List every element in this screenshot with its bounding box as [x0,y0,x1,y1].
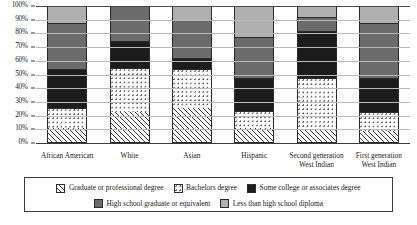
y-tick-label: 50% [15,71,28,78]
legend-item[interactable]: Less than high school diploma [220,199,323,208]
bar-segment[interactable] [48,128,86,142]
y-tick-mark [31,33,35,34]
stacked-bar-chart: 0%10%20%30%40%50%60%70%80%90%100% Africa… [0,0,417,225]
bar-segment[interactable] [298,130,336,142]
x-axis: African AmericanWhiteAsianHispanicSecond… [36,152,410,176]
x-axis-label: Hispanic [223,152,285,161]
x-axis-label: African American [36,152,98,161]
bar-segment[interactable] [48,108,86,129]
y-tick-mark [31,88,35,89]
bar-segment[interactable] [235,128,273,142]
gridline [36,47,410,48]
y-tick-label: 100% [12,2,28,9]
y-tick-label: 30% [15,98,28,105]
legend-row-1: Graduate or professional degreeBachelors… [25,181,392,196]
legend-item[interactable]: Graduate or professional degree [56,184,163,193]
gridline [36,20,410,21]
legend-swatch-darkgray-icon [94,199,103,208]
legend-item[interactable]: Bachelors degree [174,184,238,193]
y-tick-label: 60% [15,57,28,64]
x-axis-label: White [98,152,160,161]
gridline [36,6,410,7]
gridline [36,33,410,34]
plot-wrapper: 0%10%20%30%40%50%60%70%80%90%100% [0,6,417,151]
y-tick-mark [31,74,35,75]
legend-swatch-black-icon [247,184,256,193]
bar-segment[interactable] [360,78,398,112]
gridline [36,88,410,89]
legend-label: Bachelors degree [186,184,237,192]
bar-segment[interactable] [298,6,336,17]
legend-label: High school graduate or equivalent [106,200,210,208]
gridline [36,116,410,117]
bar-segment[interactable] [173,6,211,20]
plot-area [36,6,410,144]
bar-segment[interactable] [111,41,149,68]
bar-segment[interactable] [298,31,336,78]
gridline [36,102,410,103]
legend-label: Graduate or professional degree [69,184,164,192]
y-tick-label: 70% [15,43,28,50]
legend-item[interactable]: High school graduate or equivalent [94,199,210,208]
y-tick-label: 10% [15,126,28,133]
gridline [36,129,410,130]
y-tick-mark [31,101,35,102]
legend-item[interactable]: Some college or associates degree [247,184,360,193]
y-tick-mark [31,143,35,144]
bar-segment[interactable] [360,131,398,142]
y-tick-label: 90% [15,16,28,23]
bar-segment[interactable] [235,111,273,129]
legend-row-2: High school graduate or equivalentLess t… [25,196,392,211]
gridline [36,61,410,62]
y-tick-mark [31,60,35,61]
y-tick-mark [31,129,35,130]
legend-label: Some college or associates degree [260,184,361,192]
legend-swatch-hatch-icon [56,184,65,193]
bar-segment[interactable] [235,6,273,37]
y-axis: 0%10%20%30%40%50%60%70%80%90%100% [0,6,30,143]
y-tick-mark [31,19,35,20]
bar-segment[interactable] [48,23,86,70]
x-axis-label: First generation West Indian [348,152,410,169]
bar-segment[interactable] [173,20,211,58]
bar-segment[interactable] [173,108,211,142]
y-tick-label: 80% [15,30,28,37]
x-axis-label: Second generation West Indian [285,152,347,169]
legend-label: Less than high school diploma [233,200,323,208]
gridline [36,75,410,76]
bar-segment[interactable] [298,78,336,130]
legend-swatch-dots-icon [174,184,183,193]
y-tick-label: 40% [15,85,28,92]
bar-segment[interactable] [235,37,273,78]
y-tick-mark [31,115,35,116]
y-tick-label: 20% [15,112,28,119]
y-tick-label: 0% [19,139,28,146]
bar-segment[interactable] [235,78,273,111]
bar-segment[interactable] [360,23,398,78]
bar-segment[interactable] [111,6,149,40]
legend: Graduate or professional degreeBachelors… [24,177,393,212]
x-axis-label: Asian [161,152,223,161]
y-tick-mark [31,6,35,7]
legend-swatch-lightgray-icon [220,199,229,208]
y-tick-mark [31,47,35,48]
